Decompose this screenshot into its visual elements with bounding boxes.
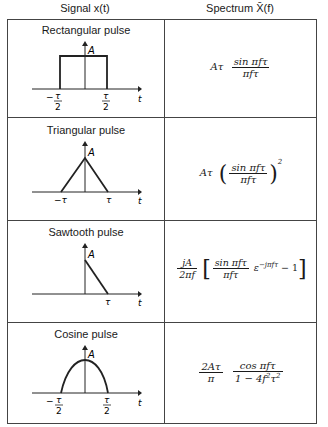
- fourier-pairs-table: Rectangular pulse A t − τ 2 τ 2 Aτ sin π…: [7, 19, 317, 424]
- svg-text:t: t: [138, 298, 142, 308]
- svg-text:τ: τ: [105, 297, 111, 307]
- triangular-pulse-graph: A t −τ τ: [8, 136, 164, 216]
- spectrum-sawtooth: jA2πf [sin πfτπfτ ε−jπfτ − 1]: [164, 256, 318, 281]
- spectrum-triangular: Aτ (sin πfτπfτ)2: [164, 158, 318, 186]
- row-divider: [8, 117, 316, 118]
- svg-text:τ: τ: [55, 91, 61, 101]
- svg-text:A: A: [87, 147, 95, 158]
- row-divider: [8, 220, 316, 221]
- spectrum-rectangular: Aτ sin πfτπfτ: [164, 56, 318, 79]
- sawtooth-pulse-graph: A t τ: [8, 238, 164, 318]
- svg-text:2: 2: [103, 102, 109, 112]
- row-title-triangular: Triangular pulse: [8, 124, 164, 136]
- spectrum-cosine: 2Aτπ cos πfτ1 − 4f2τ2: [164, 360, 318, 384]
- svg-text:τ: τ: [103, 91, 109, 101]
- svg-text:τ: τ: [56, 395, 62, 405]
- svg-text:−: −: [46, 92, 54, 102]
- svg-text:t: t: [138, 196, 142, 206]
- svg-text:t: t: [138, 94, 142, 104]
- row-divider: [8, 322, 316, 323]
- svg-text:2: 2: [55, 102, 61, 112]
- row-title-sawtooth: Sawtooth pulse: [8, 226, 164, 238]
- spectrum-column-header: Spectrum X̄(f): [163, 2, 317, 14]
- svg-text:−τ: −τ: [54, 195, 68, 205]
- svg-text:A: A: [87, 45, 95, 56]
- svg-text:τ: τ: [104, 395, 110, 405]
- svg-text:t: t: [138, 398, 142, 408]
- rectangular-pulse-graph: A t − τ 2 τ 2: [8, 36, 164, 116]
- signal-column-header: Signal x(t): [7, 2, 163, 14]
- svg-text:2: 2: [104, 406, 110, 416]
- svg-text:A: A: [87, 249, 95, 260]
- svg-text:τ: τ: [106, 195, 112, 205]
- svg-text:−: −: [46, 396, 54, 406]
- svg-text:A: A: [87, 349, 95, 360]
- svg-text:2: 2: [56, 406, 62, 416]
- row-title-rectangular: Rectangular pulse: [8, 24, 164, 36]
- cosine-pulse-graph: A t − τ 2 τ 2: [8, 340, 164, 424]
- row-title-cosine: Cosine pulse: [8, 328, 164, 340]
